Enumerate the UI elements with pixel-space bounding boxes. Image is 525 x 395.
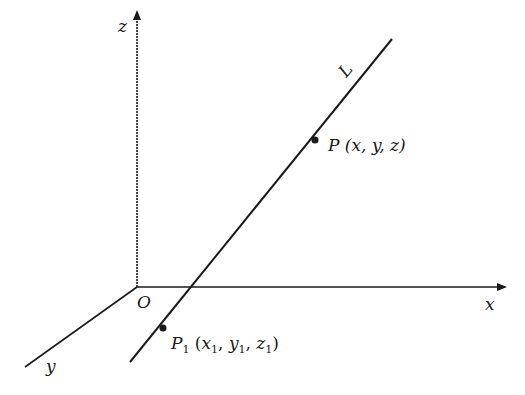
coord-z1: z <box>256 333 265 353</box>
line-l <box>130 39 392 362</box>
x-axis-label: x <box>485 296 495 313</box>
point-p1 <box>160 325 167 332</box>
point-p1-label: P1 (x1, y1, z1) <box>171 335 279 355</box>
paren-close: ) <box>272 333 279 353</box>
point-p1-name: P <box>171 333 182 353</box>
coord-y1-sub: 1 <box>239 343 246 356</box>
point-p1-name-sub: 1 <box>182 343 189 356</box>
coord-x1: x <box>202 333 212 353</box>
sep-1: , <box>218 333 229 353</box>
point-p <box>312 137 319 144</box>
paren-open: ( <box>195 333 202 353</box>
y-axis <box>25 287 137 367</box>
origin-label: O <box>137 294 151 311</box>
z-axis-label: z <box>118 18 127 35</box>
point-p-coords: (x, y, z) <box>345 135 406 155</box>
sep-2: , <box>246 333 257 353</box>
point-p-name: P <box>328 135 339 155</box>
y-axis-label: y <box>46 358 56 375</box>
point-p-label: P (x, y, z) <box>328 137 406 154</box>
coord-y1: y <box>229 333 239 353</box>
